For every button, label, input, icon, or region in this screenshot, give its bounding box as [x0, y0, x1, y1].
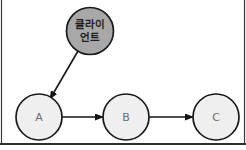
node-b[interactable]: B	[103, 94, 149, 140]
diagram-canvas: 클라이 언트 A B C	[0, 0, 246, 150]
diagram-figure: 클라이 언트 A B C	[0, 0, 246, 150]
edge-client-to-a	[50, 51, 78, 99]
node-a[interactable]: A	[16, 94, 62, 140]
edge-client-to-a-line	[50, 51, 78, 99]
node-client[interactable]: 클라이 언트	[67, 8, 114, 55]
node-b-label: B	[122, 111, 130, 124]
node-client-label-line1: 클라이	[75, 18, 105, 30]
node-c[interactable]: C	[193, 94, 239, 140]
node-a-label: A	[35, 111, 43, 124]
node-client-label-line2: 언트	[80, 31, 100, 43]
node-c-label: C	[212, 111, 220, 124]
